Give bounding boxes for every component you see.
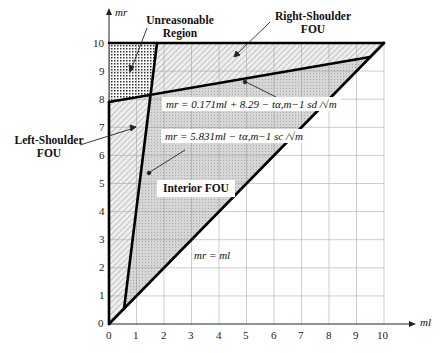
x-tick: 1 xyxy=(133,329,139,341)
unreasonable-label-line2: Region xyxy=(140,27,220,40)
lower-eq-pointer-dot-icon xyxy=(147,171,151,175)
unreasonable-label: Unreasonable Region xyxy=(140,14,220,40)
x-tick: 9 xyxy=(353,329,359,341)
left-shoulder-label-line1: Left-Shoulder xyxy=(14,134,84,147)
y-tick: 9 xyxy=(99,65,105,77)
x-axis-arrow-icon xyxy=(409,321,416,327)
upper-eq-pointer-dot-icon xyxy=(243,80,247,84)
y-tick: 6 xyxy=(99,149,105,161)
x-tick: 10 xyxy=(377,329,388,341)
diagonal-equation: mr = ml xyxy=(194,249,230,261)
left-shoulder-label: Left-Shoulder FOU xyxy=(14,134,84,160)
x-tick: 4 xyxy=(216,329,222,341)
y-tick: 4 xyxy=(99,205,105,217)
right-shoulder-label: Right-Shoulder FOU xyxy=(268,10,358,36)
left-shoulder-label-line2: FOU xyxy=(14,147,84,160)
y-axis-label: mr xyxy=(115,6,127,18)
y-axis-arrow-icon xyxy=(106,8,112,15)
x-tick: 2 xyxy=(161,329,167,341)
y-tick: 3 xyxy=(99,233,105,245)
right-shoulder-label-line2: FOU xyxy=(268,23,358,36)
interior-label: Interior FOU xyxy=(157,180,235,197)
y-tick: 1 xyxy=(99,289,105,301)
upper-equation: mr = 0.171ml + 8.29 − tα,m−1 sd /√m xyxy=(162,97,341,111)
x-tick: 3 xyxy=(188,329,194,341)
lower-equation: mr = 5.831ml − tα,m−1 sc /√m xyxy=(161,129,307,143)
x-tick: 5 xyxy=(243,329,249,341)
fou-chart xyxy=(0,0,447,353)
x-tick: 6 xyxy=(271,329,277,341)
x-axis-label: ml xyxy=(420,316,431,328)
y-tick: 10 xyxy=(93,37,104,49)
y-tick: 7 xyxy=(99,121,105,133)
x-tick: 8 xyxy=(326,329,332,341)
y-tick: 8 xyxy=(99,93,105,105)
y-tick: 0 xyxy=(98,317,104,329)
y-tick: 5 xyxy=(99,177,105,189)
y-tick: 2 xyxy=(99,261,105,273)
x-tick: 0 xyxy=(106,329,112,341)
unreasonable-label-line1: Unreasonable xyxy=(140,14,220,27)
right-shoulder-label-line1: Right-Shoulder xyxy=(268,10,358,23)
x-tick: 7 xyxy=(298,329,304,341)
